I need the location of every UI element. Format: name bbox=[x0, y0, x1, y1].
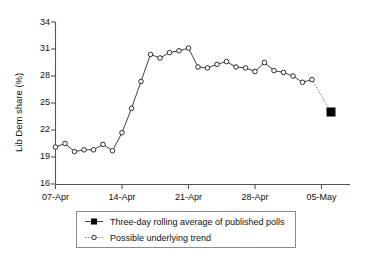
data-point-marker bbox=[243, 66, 248, 71]
data-point-marker bbox=[291, 74, 296, 79]
x-axis-tick-labels: 07-Apr 14-Apr 21-Apr 28-Apr 05-May bbox=[42, 192, 337, 202]
data-point-marker bbox=[215, 62, 220, 67]
data-point-marker bbox=[120, 130, 125, 135]
filled-square-icon bbox=[92, 219, 97, 224]
data-point-marker bbox=[272, 68, 277, 73]
data-point-marker bbox=[72, 149, 77, 154]
data-point-marker bbox=[101, 142, 106, 147]
data-point-marker bbox=[82, 148, 87, 153]
data-point-marker bbox=[196, 65, 201, 70]
y-axis bbox=[51, 22, 56, 184]
y-tick-label: 28 bbox=[40, 70, 50, 80]
x-axis bbox=[56, 185, 351, 190]
data-point-marker bbox=[300, 80, 305, 85]
rolling-average-marker bbox=[327, 108, 335, 116]
data-point-marker bbox=[224, 59, 229, 64]
x-tick-label: 14-Apr bbox=[108, 192, 135, 202]
trend-series-line bbox=[56, 48, 313, 152]
open-circle-icon bbox=[92, 235, 96, 239]
line-chart: Lib Dem share (%) 16 19 22 25 28 31 34 bbox=[0, 0, 370, 256]
y-tick-label: 31 bbox=[40, 43, 50, 53]
legend-label: Three-day rolling average of published p… bbox=[110, 217, 285, 227]
data-point-marker bbox=[63, 141, 68, 146]
data-point-marker bbox=[158, 56, 163, 61]
data-point-marker bbox=[148, 52, 153, 57]
data-point-marker bbox=[253, 69, 258, 74]
y-tick-label: 19 bbox=[40, 151, 50, 161]
x-tick-label: 28-Apr bbox=[241, 192, 268, 202]
chart-container: Lib Dem share (%) 16 19 22 25 28 31 34 bbox=[0, 0, 370, 256]
data-point-marker bbox=[281, 70, 286, 75]
data-point-marker bbox=[139, 79, 144, 84]
data-point-marker bbox=[91, 148, 96, 153]
data-point-marker bbox=[110, 148, 115, 153]
y-tick-label: 22 bbox=[40, 124, 50, 134]
y-tick-label: 16 bbox=[40, 178, 50, 188]
projection-dotted-line bbox=[312, 80, 331, 112]
legend-entry-underlying-trend: Possible underlying trend bbox=[85, 233, 211, 243]
chart-legend: Three-day rolling average of published p… bbox=[77, 212, 296, 248]
legend-label: Possible underlying trend bbox=[110, 233, 211, 243]
data-point-marker bbox=[177, 49, 182, 54]
data-point-marker bbox=[167, 50, 172, 55]
data-point-marker bbox=[186, 46, 191, 51]
data-point-marker bbox=[262, 60, 267, 65]
data-point-marker bbox=[53, 145, 58, 150]
x-tick-label: 21-Apr bbox=[175, 192, 202, 202]
data-series-layer bbox=[53, 46, 335, 154]
legend-entry-rolling-average: Three-day rolling average of published p… bbox=[85, 217, 285, 227]
x-tick-label: 07-Apr bbox=[42, 192, 69, 202]
y-axis-title: Lib Dem share (%) bbox=[13, 73, 24, 152]
data-point-marker bbox=[205, 66, 210, 71]
data-point-marker bbox=[310, 77, 315, 82]
y-tick-label: 25 bbox=[40, 97, 50, 107]
y-axis-tick-labels: 16 19 22 25 28 31 34 bbox=[40, 17, 50, 188]
data-point-marker bbox=[234, 65, 239, 70]
x-tick-label: 05-May bbox=[306, 192, 337, 202]
data-point-marker bbox=[129, 106, 134, 111]
y-tick-label: 34 bbox=[40, 17, 50, 27]
